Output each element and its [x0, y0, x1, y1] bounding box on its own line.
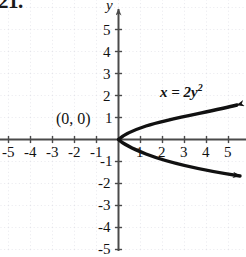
y-tick-label-neg3: -3	[98, 198, 111, 213]
problem-number: 21.	[0, 0, 23, 12]
x-tick-label-2: 2	[158, 145, 166, 160]
x-tick-label-neg5: -5	[2, 145, 15, 160]
x-tick-label-1: 1	[136, 145, 144, 160]
vertex-label: (0, 0)	[56, 110, 91, 128]
y-axis-label: y	[106, 0, 113, 14]
x-tick-label-neg4: -4	[24, 145, 37, 160]
x-tick-label-neg3: -3	[46, 145, 59, 160]
x-tick-label-5: 5	[224, 145, 232, 160]
y-tick-label-neg5: -5	[98, 242, 111, 257]
x-tick-label-neg2: -2	[68, 145, 81, 160]
y-tick-label-neg1: -1	[100, 154, 113, 169]
y-tick-label-2: 2	[103, 89, 111, 104]
y-tick-label-neg2: -2	[98, 176, 111, 191]
equation-exponent: 2	[198, 82, 203, 93]
equation-base: x = 2y	[160, 84, 198, 100]
y-tick-label-neg4: -4	[98, 220, 111, 235]
x-tick-label-4: 4	[202, 145, 210, 160]
y-tick-label-3: 3	[103, 67, 111, 82]
x-tick-label-3: 3	[180, 145, 188, 160]
y-tick-label-4: 4	[103, 45, 111, 60]
y-tick-label-5: 5	[103, 23, 111, 38]
y-tick-label-1: 1	[105, 111, 113, 126]
equation-label: x = 2y2	[160, 82, 203, 101]
